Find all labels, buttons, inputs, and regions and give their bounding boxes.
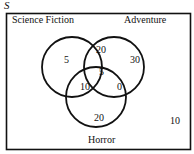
set-label-horror: Horror [88,135,115,145]
region-scifi-horror: 10 [80,82,90,92]
region-scifi-adventure: 20 [96,45,106,55]
set-label-science-fiction: Science Fiction [12,15,74,25]
region-none: 10 [170,116,180,126]
region-adventure-only: 30 [130,55,140,65]
region-all-three: 5 [99,67,104,77]
set-label-adventure: Adventure [124,15,166,25]
region-science-fiction-only: 5 [64,55,69,65]
region-adventure-horror: 0 [117,82,122,92]
region-horror-only: 20 [94,113,104,123]
